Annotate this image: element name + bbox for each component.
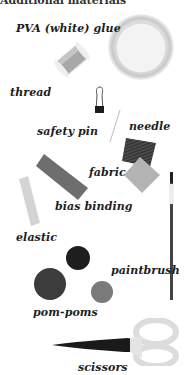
elastic-image [16,175,42,227]
label-glue: PVA (white) glue [16,22,121,35]
label-needle: needle [129,120,170,133]
label-safety-pin: safety pin [37,125,98,138]
label-bias-binding: bias binding [55,200,133,213]
label-scissors: scissors [78,361,128,374]
label-paintbrush: paintbrush [111,264,180,277]
thread-spool-image [52,40,92,80]
label-elastic: elastic [16,231,57,244]
scissors-image [50,318,182,366]
label-thread: thread [10,86,51,99]
label-fabric: fabric [89,166,126,179]
fabric-image [118,135,163,195]
page-heading: Additional materials [0,0,126,7]
pom-poms-image [30,244,120,310]
safety-pin-image [93,85,107,117]
paintbrush-image [166,170,178,302]
